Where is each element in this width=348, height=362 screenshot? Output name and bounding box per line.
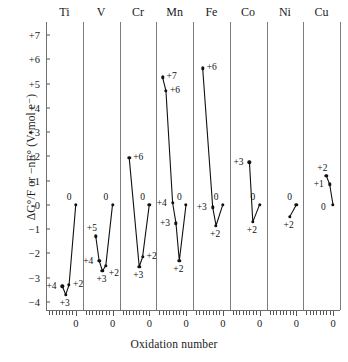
x-axis-tick-mark [159, 311, 160, 315]
data-point-label: +2 [210, 230, 220, 240]
x-axis-tick-mark [62, 311, 63, 315]
data-point [67, 283, 70, 286]
data-point [258, 203, 261, 206]
data-point-label: +3 [96, 275, 106, 285]
data-point [288, 215, 291, 218]
data-point-label: 0 [67, 193, 72, 203]
x-axis-tick-mark [209, 311, 210, 315]
data-point-label: +7 [167, 72, 177, 82]
x-axis-tick-mark [86, 311, 87, 315]
x-axis-zero-label: 0 [183, 318, 188, 329]
x-axis-tick-mark [260, 311, 261, 316]
y-axis-tick-label: −4 [29, 297, 40, 308]
x-axis-tick-mark [149, 311, 150, 316]
panel-divider [340, 22, 341, 310]
data-point [251, 220, 254, 223]
x-axis-tick-mark [323, 311, 324, 315]
x-axis-tick-mark [333, 311, 334, 316]
x-axis-tick-mark [129, 311, 130, 315]
data-point [97, 259, 100, 262]
x-axis-tick-mark [139, 311, 140, 315]
panel-label-ni: Ni [279, 5, 291, 20]
x-axis-tick-mark [72, 311, 73, 315]
data-point [94, 235, 97, 238]
panel-label-v: V [97, 5, 106, 20]
x-axis-tick-mark [249, 311, 250, 315]
panel-label-cr: Cr [132, 5, 144, 20]
panel-divider [303, 22, 304, 310]
data-point [101, 269, 104, 272]
panel-divider [230, 22, 231, 310]
x-axis-tick-mark [223, 311, 224, 316]
x-axis-tick-mark [280, 311, 281, 315]
data-point [211, 206, 214, 209]
data-point-label: 0 [251, 193, 256, 203]
series-line-cu [326, 176, 333, 205]
x-axis-tick-mark [169, 311, 170, 315]
x-axis-tick-mark [109, 311, 110, 315]
data-point-label: +2 [173, 265, 183, 275]
data-point-label: +2 [109, 269, 119, 279]
data-point [214, 224, 217, 227]
x-axis-tick-mark [330, 311, 331, 315]
x-axis-tick-mark [146, 311, 147, 315]
x-axis-tick-mark [113, 311, 114, 316]
x-axis-zero-label: 0 [294, 318, 299, 329]
data-point-label: +3 [60, 299, 70, 309]
data-point [248, 161, 251, 164]
x-axis-tick-mark [310, 311, 311, 315]
data-point-label: 0 [177, 193, 182, 203]
x-axis-tick-mark [270, 311, 271, 315]
data-point-label: +3 [160, 219, 170, 229]
x-axis-tick-mark [56, 311, 57, 315]
x-axis-tick-mark [206, 311, 207, 315]
data-point-label: +3 [133, 271, 143, 281]
data-point [161, 76, 164, 79]
data-point [148, 203, 151, 206]
x-axis-tick-mark [123, 311, 124, 315]
x-axis-tick-mark [66, 311, 67, 315]
x-axis-tick-mark [246, 311, 247, 315]
x-axis-label: Oxidation number [0, 338, 348, 350]
data-point [141, 255, 144, 258]
x-axis-tick-mark [290, 311, 291, 315]
x-axis-tick-mark [163, 311, 164, 315]
x-axis-tick-mark [306, 311, 307, 315]
y-axis-tick-label: 0 [35, 199, 40, 210]
x-axis-tick-mark [233, 311, 234, 315]
x-axis-tick-mark [143, 311, 144, 315]
x-axis-tick-mark [173, 311, 174, 315]
x-axis-tick-mark [166, 311, 167, 315]
x-axis-tick-mark [76, 311, 77, 316]
y-axis-tick-label: +4 [29, 102, 40, 113]
x-axis-tick-mark [199, 311, 200, 315]
data-point [127, 156, 130, 159]
data-point-label: +4 [83, 257, 93, 267]
data-point [295, 203, 298, 206]
data-point [111, 203, 114, 206]
x-axis-tick-mark [273, 311, 274, 315]
data-point [164, 89, 167, 92]
x-axis-tick-mark [126, 311, 127, 315]
data-point [328, 183, 331, 186]
panel-label-co: Co [241, 5, 255, 20]
data-point-label: 0 [214, 193, 219, 203]
x-axis-tick-mark [326, 311, 327, 315]
panel-divider [267, 22, 268, 310]
y-axis-tick-label: −3 [29, 272, 40, 283]
x-axis-tick-mark [136, 311, 137, 315]
data-point [178, 259, 181, 262]
data-point [64, 293, 67, 296]
data-point [184, 203, 187, 206]
x-axis-zero-label: 0 [257, 318, 262, 329]
x-axis-tick-mark [216, 311, 217, 315]
x-axis-tick-mark [203, 311, 204, 315]
panel-label-ti: Ti [59, 5, 69, 20]
y-axis-tick-label: +6 [29, 54, 40, 65]
data-point-label: +1 [314, 180, 324, 190]
y-axis-tick-label: +3 [29, 127, 40, 138]
data-point [104, 264, 107, 267]
x-axis-tick-mark [92, 311, 93, 315]
x-axis-tick-mark [286, 311, 287, 315]
x-axis-tick-mark [99, 311, 100, 315]
